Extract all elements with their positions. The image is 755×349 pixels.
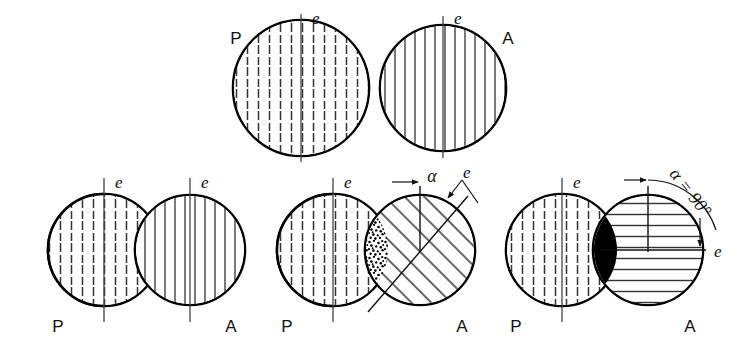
label-top-a: A <box>502 29 514 48</box>
axis-label-g2-a: e <box>463 163 471 182</box>
figure-root: P e A e <box>0 0 755 349</box>
label-g1-p: P <box>52 317 63 336</box>
axis-label-g3-p: e <box>573 173 581 192</box>
axis-label-g1-a: e <box>201 173 209 192</box>
label-g2-a: A <box>456 317 468 336</box>
diagram-canvas: P e A e <box>0 0 755 349</box>
axis-label-g2-p: e <box>344 173 352 192</box>
label-g3-a: A <box>684 317 696 336</box>
axis-label-g1-p: e <box>115 173 123 192</box>
axis-label-g3-a: e <box>714 242 722 261</box>
alpha-label-g2: α <box>427 166 437 186</box>
label-g2-p: P <box>281 317 292 336</box>
axis-label-top-p: e <box>312 9 320 28</box>
label-g1-a: A <box>225 317 237 336</box>
axis-label-top-a: e <box>454 9 462 28</box>
label-g3-p: P <box>510 317 521 336</box>
label-top-p: P <box>230 29 241 48</box>
